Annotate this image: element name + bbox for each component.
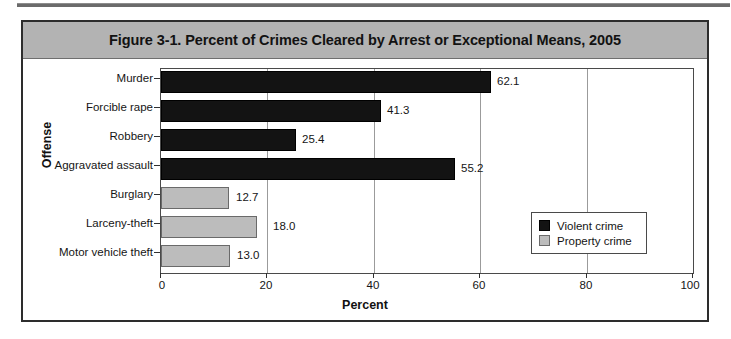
- category-label-forcible-rape: Forcible rape: [86, 101, 153, 113]
- category-label-robbery: Robbery: [110, 130, 153, 142]
- x-tick-label-0: 0: [159, 279, 165, 291]
- value-label-forcible-rape: 41.3: [387, 104, 409, 116]
- category-label-column: Murder Forcible rape Robbery Aggravated …: [43, 68, 153, 272]
- figure-title: Figure 3-1. Percent of Crimes Cleared by…: [109, 32, 621, 48]
- value-label-burglary: 12.7: [236, 191, 258, 203]
- x-tick-100: [692, 273, 693, 278]
- x-tick-label-40: 40: [367, 279, 380, 291]
- x-tick-label-80: 80: [580, 279, 593, 291]
- bar-murder: [161, 71, 491, 93]
- x-tick-60: [479, 273, 480, 278]
- value-label-larceny-theft: 18.0: [273, 220, 295, 232]
- x-tick-0: [160, 273, 161, 278]
- bar-forcible-rape: [161, 100, 381, 122]
- value-label-aggravated-assault: 55.2: [461, 162, 483, 174]
- legend-label-property-crime: Property crime: [557, 235, 632, 247]
- x-axis-label-row: 0 20 40 60 80 100: [160, 279, 693, 295]
- x-tick-label-100: 100: [680, 279, 699, 291]
- figure-container: Figure 3-1. Percent of Crimes Cleared by…: [21, 20, 709, 322]
- chart-legend: Violent crime Property crime: [531, 212, 647, 254]
- legend-item-property-crime: Property crime: [539, 233, 638, 248]
- value-label-motor-vehicle-theft: 13.0: [237, 249, 259, 261]
- bar-burglary: [161, 187, 229, 209]
- x-tick-80: [586, 273, 587, 278]
- category-label-murder: Murder: [117, 72, 153, 84]
- category-label-motor-vehicle-theft: Motor vehicle theft: [59, 246, 153, 258]
- legend-swatch-violent-crime: [539, 220, 550, 231]
- category-label-burglary: Burglary: [110, 188, 153, 200]
- figure-title-banner: Figure 3-1. Percent of Crimes Cleared by…: [23, 22, 707, 59]
- x-axis-title: Percent: [23, 298, 707, 312]
- bar-aggravated-assault: [161, 158, 455, 180]
- x-tick-20: [266, 273, 267, 278]
- bar-motor-vehicle-theft: [161, 245, 230, 267]
- x-tick-40: [373, 273, 374, 278]
- x-tick-label-60: 60: [473, 279, 486, 291]
- page-top-rule: [17, 3, 730, 7]
- x-tick-label-20: 20: [260, 279, 273, 291]
- legend-label-violent-crime: Violent crime: [557, 220, 623, 232]
- category-label-larceny-theft: Larceny-theft: [86, 217, 153, 229]
- category-label-aggravated-assault: Aggravated assault: [55, 159, 153, 171]
- bar-robbery: [161, 129, 296, 151]
- legend-item-violent-crime: Violent crime: [539, 218, 638, 233]
- legend-swatch-property-crime: [539, 235, 550, 246]
- value-label-robbery: 25.4: [302, 133, 324, 145]
- value-label-murder: 62.1: [497, 75, 519, 87]
- bar-larceny-theft: [161, 216, 257, 238]
